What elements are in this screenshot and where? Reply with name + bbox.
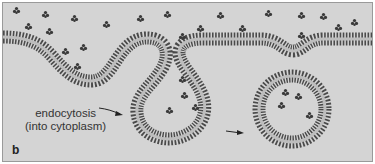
panel-label: b [12,143,19,157]
diagram-panel: endocytosis (into cytoplasm) b [2,2,373,162]
endocytosis-caption: endocytosis (into cytoplasm) [25,107,106,133]
caption-line-1: endocytosis [25,107,106,120]
endocytic-vesicle [259,76,325,142]
endocytosis-illustration [3,3,372,161]
caption-line-2: (into cytoplasm) [25,120,106,133]
